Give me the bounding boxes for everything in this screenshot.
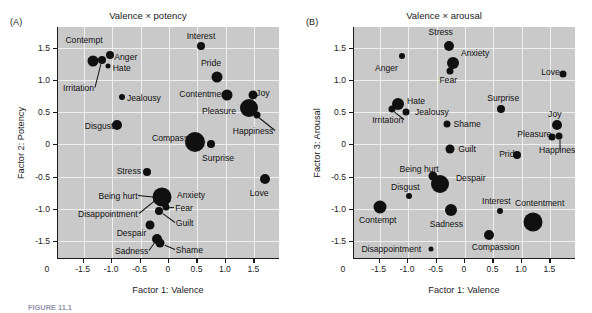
gridline-horizontal <box>58 144 279 145</box>
gridline-vertical <box>522 27 523 258</box>
y-tick-label: 1.0 <box>17 75 50 85</box>
data-point-contentment[interactable] <box>524 212 543 231</box>
point-label-interest: Interest <box>187 32 216 41</box>
point-label-despair: Despair <box>456 174 486 183</box>
data-point-despair[interactable] <box>431 175 449 193</box>
data-point-stress[interactable] <box>143 168 151 176</box>
data-point-surprise[interactable] <box>207 140 215 148</box>
gridline-vertical <box>550 27 551 258</box>
point-label-shame: Shame <box>176 246 203 255</box>
y-tick <box>349 209 353 210</box>
point-label-sadness: Sadness <box>115 247 148 256</box>
point-label-love: Love <box>250 189 269 198</box>
data-point-irritation[interactable] <box>98 56 106 64</box>
gridline-horizontal <box>354 209 575 210</box>
x-tick-label: -0.5 <box>132 264 147 274</box>
point-label-disgust: Disgust <box>85 122 114 131</box>
y-tick-label: 0.5 <box>17 107 50 117</box>
panel-b-plot-area[interactable]: StressAngerAnxietyFearLoveHateIrritation… <box>353 27 575 259</box>
y-tick <box>349 144 353 145</box>
panel-a-x-origin-label: 0 <box>45 264 50 274</box>
x-tick-label: -1.5 <box>75 264 90 274</box>
point-label-anxiety: Anxiety <box>177 191 205 200</box>
point-label-jealousy: Jealousy <box>127 94 161 103</box>
data-point-stress[interactable] <box>444 41 454 51</box>
data-point-pride[interactable] <box>212 71 223 82</box>
x-tick-label: 1.0 <box>515 264 527 274</box>
x-tick <box>436 259 437 263</box>
point-label-surprise: Surprise <box>202 154 234 163</box>
y-tick <box>53 241 57 242</box>
data-point-love[interactable] <box>560 71 567 78</box>
x-tick-label: 1.5 <box>543 264 555 274</box>
point-label-fear: Fear <box>439 76 457 85</box>
x-tick <box>464 259 465 263</box>
data-point-guilt[interactable] <box>446 144 455 153</box>
y-tick-label: -1.0 <box>313 204 346 214</box>
x-tick <box>168 259 169 263</box>
leader-line <box>149 243 155 251</box>
panel-a-title: Valence × potency <box>0 10 296 21</box>
x-tick <box>83 259 84 263</box>
gridline-horizontal <box>354 80 575 81</box>
data-point-disgust[interactable] <box>406 193 412 199</box>
data-point-sadness[interactable] <box>445 204 457 216</box>
figure-container: (A) Valence × potency ContemptIrritation… <box>0 0 592 313</box>
data-point-love[interactable] <box>260 174 270 184</box>
x-tick <box>407 259 408 263</box>
gridline-horizontal <box>354 112 575 113</box>
y-tick <box>53 177 57 178</box>
gridline-vertical <box>84 27 85 258</box>
point-label-sadness: Sadness <box>430 220 463 229</box>
point-label-anxiety: Anxiety <box>461 49 489 58</box>
y-tick-label: 1.5 <box>313 43 346 53</box>
point-label-pleasure: Pleasure <box>202 107 236 116</box>
gridline-horizontal <box>354 241 575 242</box>
point-label-contempt: Contempt <box>65 36 102 45</box>
x-tick <box>549 259 550 263</box>
gridline-vertical <box>408 27 409 258</box>
point-label-hate: Hate <box>407 97 425 106</box>
panel-b-x-origin-label: 0 <box>341 264 346 274</box>
x-tick <box>225 259 226 263</box>
panel-a-plot-area[interactable]: ContemptIrritationAngerHateJealousyDisgu… <box>57 27 279 259</box>
gridline-horizontal <box>58 80 279 81</box>
data-point-disappointment[interactable] <box>428 247 433 252</box>
data-point-surprise[interactable] <box>497 105 505 113</box>
data-point-shame[interactable] <box>444 120 451 127</box>
data-point-happiness[interactable] <box>556 132 563 139</box>
data-point-hate[interactable] <box>106 64 111 69</box>
point-label-being-hurt: Being hurt <box>98 192 137 201</box>
data-point-fear[interactable] <box>447 68 454 75</box>
point-label-disappointment: Disappointment <box>361 245 421 254</box>
y-tick-label: -1.0 <box>17 204 50 214</box>
point-label-shame: Shame <box>454 120 481 129</box>
y-tick <box>349 177 353 178</box>
data-point-jealousy[interactable] <box>119 94 125 100</box>
gridline-horizontal <box>58 177 279 178</box>
gridline-vertical <box>493 27 494 258</box>
x-tick <box>521 259 522 263</box>
gridline-vertical <box>254 27 255 258</box>
x-tick <box>379 259 380 263</box>
y-tick <box>53 144 57 145</box>
data-point-shame[interactable] <box>156 238 165 247</box>
leader-line <box>559 140 560 150</box>
data-point-compassion[interactable] <box>484 230 494 240</box>
point-label-anger: Anger <box>375 64 398 73</box>
data-point-jealousy[interactable] <box>403 109 410 116</box>
data-point-interest[interactable] <box>497 208 503 214</box>
x-tick-label: -1.0 <box>104 264 119 274</box>
point-label-love: Love <box>541 68 560 77</box>
point-label-pride: Pride <box>499 150 519 159</box>
x-tick-label: 0 <box>462 264 467 274</box>
point-label-disgust: Disgust <box>391 183 420 192</box>
data-point-anger[interactable] <box>106 51 114 59</box>
x-tick-label: -1.5 <box>371 264 386 274</box>
point-label-pride: Pride <box>201 59 221 68</box>
data-point-contempt[interactable] <box>373 201 386 214</box>
data-point-despair[interactable] <box>145 220 154 229</box>
data-point-interest[interactable] <box>197 42 205 50</box>
data-point-anger[interactable] <box>399 53 405 59</box>
data-point-joy[interactable] <box>552 120 562 130</box>
